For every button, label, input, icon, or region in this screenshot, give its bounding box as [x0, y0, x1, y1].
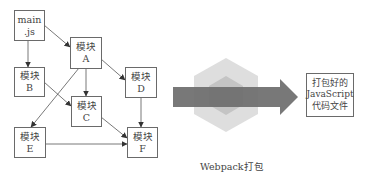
output-line-1: 打包好的 — [312, 78, 348, 90]
module-b: 模块 B — [14, 67, 45, 97]
module-e-letter: E — [27, 143, 34, 155]
module-a-letter: A — [83, 53, 90, 65]
module-c-label: 模块 — [77, 100, 97, 112]
module-main-js-ext: .js — [24, 26, 35, 38]
module-a-label: 模块 — [76, 41, 96, 53]
module-d-label: 模块 — [131, 71, 151, 83]
module-f: 模块 F — [127, 127, 158, 158]
module-e: 模块 E — [14, 127, 46, 158]
module-c-letter: C — [83, 112, 90, 124]
edge-main-to-a — [44, 25, 70, 47]
edge-a-to-d — [101, 59, 125, 80]
webpack-caption: Webpack打包 — [200, 159, 264, 173]
edge-b-to-c — [44, 82, 71, 106]
module-b-label: 模块 — [20, 70, 40, 82]
output-line-3: 代码文件 — [312, 101, 348, 113]
module-main-js: main .js — [14, 10, 45, 41]
module-main-js-name: main — [18, 14, 42, 26]
output-line-2: JavaScript — [306, 89, 353, 101]
module-f-label: 模块 — [133, 131, 153, 143]
edge-c-to-f — [101, 117, 127, 138]
module-f-letter: F — [139, 143, 146, 155]
module-d: 模块 D — [125, 67, 157, 98]
module-d-letter: D — [137, 83, 145, 95]
output-bundle-box: 打包好的 JavaScript 代码文件 — [306, 73, 354, 117]
module-e-label: 模块 — [20, 131, 40, 143]
module-b-letter: B — [26, 82, 33, 94]
module-a: 模块 A — [70, 37, 102, 69]
module-c: 模块 C — [71, 96, 102, 127]
